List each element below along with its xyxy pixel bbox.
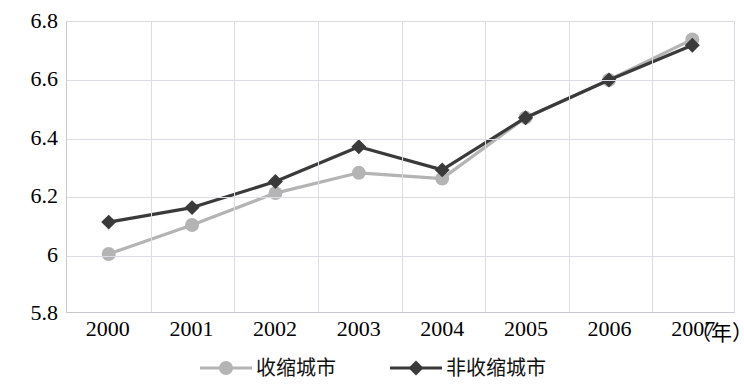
data-point-diamond (101, 215, 116, 230)
data-point-diamond (351, 139, 366, 154)
y-axis-labels: 6.86.66.46.265.8 (0, 0, 66, 389)
legend-circle-marker-icon (198, 359, 254, 377)
plot-area (66, 21, 735, 313)
y-axis-tick-label: 5.8 (31, 300, 59, 326)
x-axis-tick-label: 2004 (420, 316, 464, 342)
series-layer (67, 22, 734, 312)
horizontal-gridline (67, 139, 734, 140)
y-axis-tick-label: 6.4 (31, 125, 59, 151)
y-axis-tick-label: 6.8 (31, 8, 59, 34)
data-point-circle (352, 166, 366, 180)
legend-label: 非收缩城市 (446, 358, 546, 378)
horizontal-gridline (67, 80, 734, 81)
legend-label: 收缩城市 (256, 358, 336, 378)
x-axis-unit-label: （年） (690, 316, 744, 346)
vertical-gridline (485, 22, 486, 312)
y-axis-tick-label: 6.6 (31, 66, 59, 92)
line-chart: 6.86.66.46.265.8 20002001200220032004200… (0, 0, 744, 389)
x-axis-tick-label: 2003 (337, 316, 381, 342)
vertical-gridline (151, 22, 152, 312)
data-point-diamond (185, 200, 200, 215)
legend-item[interactable]: 收缩城市 (198, 358, 336, 378)
horizontal-gridline (67, 256, 734, 257)
data-point-circle (102, 247, 116, 261)
series-line (109, 45, 693, 222)
legend-diamond-marker-icon (388, 359, 444, 377)
x-axis-labels: 20002001200220032004200520062007 (66, 316, 735, 350)
legend-item[interactable]: 非收缩城市 (388, 358, 546, 378)
x-axis-tick-label: 2005 (504, 316, 548, 342)
x-axis-tick-label: 2002 (253, 316, 297, 342)
y-axis-tick-label: 6.2 (31, 183, 59, 209)
vertical-gridline (569, 22, 570, 312)
vertical-gridline (652, 22, 653, 312)
chart-legend: 收缩城市非收缩城市 (0, 358, 744, 378)
data-point-circle (185, 218, 199, 232)
vertical-gridline (234, 22, 235, 312)
x-axis-tick-label: 2000 (86, 316, 130, 342)
x-axis-tick-label: 2001 (169, 316, 213, 342)
vertical-gridline (318, 22, 319, 312)
horizontal-gridline (67, 197, 734, 198)
y-axis-tick-label: 6 (47, 242, 58, 268)
data-point-diamond (268, 174, 283, 189)
vertical-gridline (402, 22, 403, 312)
x-axis-tick-label: 2006 (588, 316, 632, 342)
